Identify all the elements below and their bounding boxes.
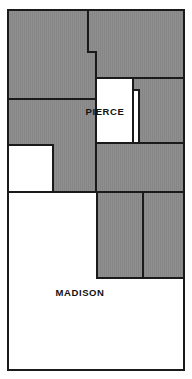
south-left-shaded-region <box>97 192 143 278</box>
county-map-svg: PIERCEMADISON <box>0 0 192 379</box>
map-canvas: PIERCEMADISON <box>0 0 192 379</box>
map-label-madison: MADISON <box>55 287 104 298</box>
map-label-pierce: PIERCE <box>86 106 125 117</box>
east-middle-shaded-region <box>133 78 184 143</box>
west-middle-unshaded-region <box>8 145 53 192</box>
south-right-shaded-region <box>143 192 184 278</box>
center-band-shaded-region <box>96 143 184 192</box>
northwest-shaded-region <box>8 10 96 99</box>
